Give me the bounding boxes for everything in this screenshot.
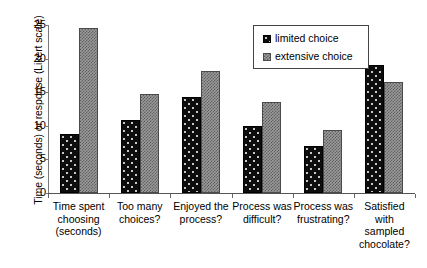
x-axis-tick-mark bbox=[170, 194, 171, 198]
bar-extensive-choice bbox=[79, 28, 98, 193]
y-axis-tick-mark bbox=[44, 193, 48, 194]
x-axis-category-label-line: frustrating? bbox=[289, 213, 358, 226]
x-axis-tick-mark bbox=[415, 194, 416, 198]
x-axis-category-label-line: (seconds) bbox=[44, 225, 113, 238]
x-axis-category-label-line: process? bbox=[166, 213, 235, 226]
x-axis-category-label: Process wasfrustrating? bbox=[289, 200, 358, 225]
y-axis-tick-label: 10 bbox=[24, 120, 46, 131]
bar-extensive-choice bbox=[262, 102, 281, 193]
x-axis-tick-mark bbox=[293, 194, 294, 198]
x-axis-category-label-line: choosing bbox=[44, 213, 113, 226]
legend-label: limited choice bbox=[275, 33, 339, 44]
bar-extensive-choice bbox=[323, 130, 342, 193]
bar-limited-choice bbox=[60, 134, 79, 193]
x-axis-category-label-line: Process was bbox=[289, 200, 358, 213]
bar-limited-choice bbox=[182, 97, 201, 193]
bar-limited-choice bbox=[243, 126, 262, 193]
y-axis-tick-mark bbox=[44, 126, 48, 127]
x-axis-category-label: Satisfiedwithsampledchocolate? bbox=[350, 200, 419, 250]
legend-entry-limited-choice: limited choice bbox=[263, 33, 339, 44]
legend-swatch-icon bbox=[263, 35, 271, 43]
bar-limited-choice bbox=[121, 120, 140, 193]
legend-label: extensive choice bbox=[275, 51, 353, 62]
y-axis-tick-label: 25 bbox=[24, 19, 46, 30]
x-axis-tick-mark bbox=[109, 194, 110, 198]
bar-chart: Time (seconds) or response (Likert scale… bbox=[0, 0, 427, 268]
y-axis-tick-label: 15 bbox=[24, 86, 46, 97]
x-axis-category-label-line: choices? bbox=[105, 213, 174, 226]
x-axis-category-label: Time spentchoosing(seconds) bbox=[44, 200, 113, 238]
x-axis-category-label-line: with bbox=[350, 213, 419, 226]
legend-entry-extensive-choice: extensive choice bbox=[263, 51, 353, 62]
y-axis-tick-label: 5 bbox=[24, 153, 46, 164]
x-axis-category-label-line: Process was bbox=[228, 200, 297, 213]
x-axis-category-label-line: Too many bbox=[105, 200, 174, 213]
x-axis-category-label-line: Enjoyed the bbox=[166, 200, 235, 213]
bar-limited-choice bbox=[365, 65, 384, 193]
x-axis-category-label-line: difficult? bbox=[228, 213, 297, 226]
x-axis-category-label: Too manychoices? bbox=[105, 200, 174, 225]
bar-limited-choice bbox=[304, 146, 323, 193]
bar-extensive-choice bbox=[140, 94, 159, 193]
chart-legend: limited choice extensive choice bbox=[253, 25, 369, 69]
x-axis-tick-mark bbox=[48, 194, 49, 198]
bar-extensive-choice bbox=[384, 82, 403, 193]
x-axis-tick-mark bbox=[232, 194, 233, 198]
y-axis-tick-label: 0 bbox=[24, 187, 46, 198]
y-axis-tick-mark bbox=[44, 25, 48, 26]
x-axis-category-label: Process wasdifficult? bbox=[228, 200, 297, 225]
y-axis-tick-mark bbox=[44, 92, 48, 93]
y-axis-tick-mark bbox=[44, 159, 48, 160]
bar-extensive-choice bbox=[201, 71, 220, 193]
x-axis-category-label-line: sampled bbox=[350, 225, 419, 238]
x-axis-tick-mark bbox=[354, 194, 355, 198]
y-axis-tick-label: 20 bbox=[24, 53, 46, 64]
legend-swatch-icon bbox=[263, 53, 271, 61]
x-axis-category-label-line: Satisfied bbox=[350, 200, 419, 213]
y-axis-tick-labels: 0510152025 bbox=[24, 0, 46, 268]
x-axis-category-label-line: chocolate? bbox=[350, 238, 419, 251]
x-axis-category-label-line: Time spent bbox=[44, 200, 113, 213]
x-axis-category-label: Enjoyed theprocess? bbox=[166, 200, 235, 225]
y-axis-tick-mark bbox=[44, 59, 48, 60]
